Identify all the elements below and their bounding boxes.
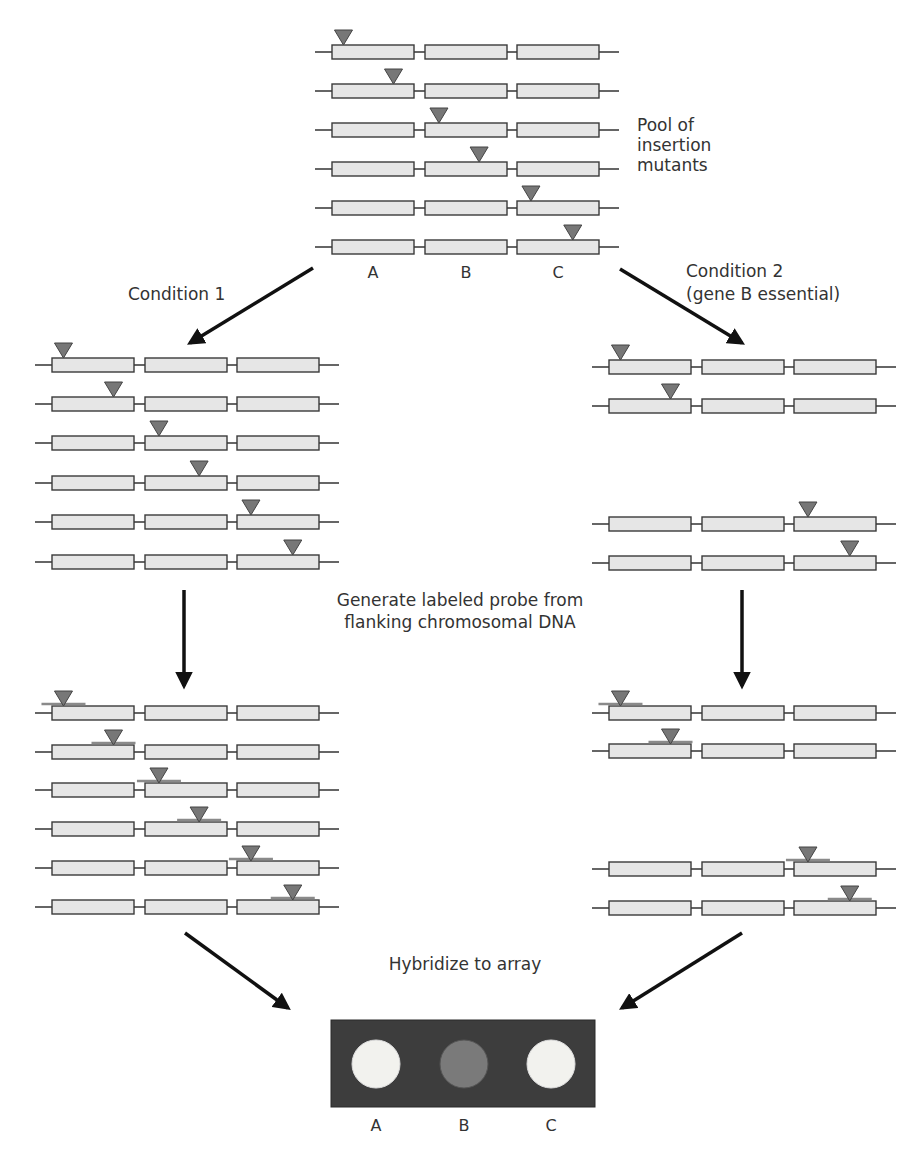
chromosome-row (35, 343, 339, 372)
gene-b-box (425, 162, 507, 176)
gene-c-box (794, 744, 876, 758)
gene-a-box (609, 360, 691, 374)
chromosome-row (35, 382, 339, 411)
probe-step-line1: Generate labeled probe from (300, 589, 620, 611)
array-label-b: B (449, 1117, 479, 1135)
chromosome-row (315, 30, 619, 59)
gene-c-box (794, 556, 876, 570)
gene-a-box (52, 515, 134, 529)
gene-c-box (517, 201, 599, 215)
gene-b-box (145, 861, 227, 875)
insertion-triangle-icon (799, 502, 817, 517)
gene-a-box (52, 900, 134, 914)
gene-c-box (237, 555, 319, 569)
gene-c-box (237, 397, 319, 411)
pool-label-line1: Pool of (637, 115, 711, 135)
gene-b-box (145, 476, 227, 490)
gene-a-box (332, 240, 414, 254)
pool-gene-label-c: C (543, 264, 573, 282)
pool-gene-label-b: B (451, 264, 481, 282)
gene-b-box (145, 397, 227, 411)
condition1-probed-group (35, 691, 339, 914)
chromosome-row (592, 847, 896, 876)
gene-b-box (145, 515, 227, 529)
chromosome-row (315, 225, 619, 254)
gene-c-box (237, 358, 319, 372)
hybridize-label: Hybridize to array (340, 954, 590, 974)
gene-b-box (145, 555, 227, 569)
arrow-condition2-array (622, 933, 742, 1008)
gene-a-box (52, 783, 134, 797)
chromosome-row (592, 886, 896, 915)
gene-a-box (52, 555, 134, 569)
condition2-label-line1: Condition 2 (686, 260, 840, 283)
gene-c-box (237, 476, 319, 490)
gene-a-box (332, 45, 414, 59)
gene-c-box (517, 240, 599, 254)
pool-label-line3: mutants (637, 155, 711, 175)
chromosome-row (592, 541, 896, 570)
gene-c-box (237, 900, 319, 914)
gene-b-box (702, 556, 784, 570)
gene-c-box (237, 515, 319, 529)
gene-c-box (794, 517, 876, 531)
gene-c-box (794, 706, 876, 720)
gene-a-box (332, 123, 414, 137)
array-spot-c (527, 1040, 575, 1088)
chromosome-row (592, 345, 896, 374)
probe-step-line2: flanking chromosomal DNA (300, 611, 620, 633)
pool-gene-label-a: A (358, 264, 388, 282)
gene-c-box (517, 84, 599, 98)
pool-label: Pool of insertion mutants (637, 115, 711, 175)
gene-b-box (425, 45, 507, 59)
chromosome-row (35, 807, 339, 836)
array-spot-b (440, 1040, 488, 1088)
condition2-probed-group (592, 691, 896, 915)
insertion-triangle-icon (150, 421, 168, 436)
insertion-triangle-icon (841, 541, 859, 556)
gene-b-box (145, 706, 227, 720)
chromosome-row (35, 421, 339, 450)
gene-b-box (425, 84, 507, 98)
gene-b-box (702, 744, 784, 758)
gene-a-box (52, 861, 134, 875)
chromosome-row (315, 147, 619, 176)
gene-c-box (517, 123, 599, 137)
array-spot-a (352, 1040, 400, 1088)
gene-a-box (52, 745, 134, 759)
gene-c-box (517, 162, 599, 176)
gene-b-box (702, 706, 784, 720)
chromosome-row (35, 768, 339, 797)
gene-a-box (332, 84, 414, 98)
chromosome-row (35, 846, 339, 875)
array-label-c: C (536, 1117, 566, 1135)
insertion-triangle-icon (470, 147, 488, 162)
gene-a-box (52, 476, 134, 490)
gene-a-box (332, 201, 414, 215)
flow-arrows (184, 268, 742, 1008)
insertion-triangle-icon (242, 500, 260, 515)
gene-a-box (609, 744, 691, 758)
gene-c-box (237, 783, 319, 797)
condition2-label-line2: (gene B essential) (686, 283, 840, 306)
chromosome-row (592, 729, 896, 758)
insertion-triangle-icon (430, 108, 448, 123)
insertion-triangle-icon (385, 69, 403, 84)
chromosome-row (35, 540, 339, 569)
gene-c-box (237, 822, 319, 836)
hybridization-array (331, 1020, 595, 1107)
gene-a-box (52, 822, 134, 836)
insertion-triangle-icon (611, 345, 629, 360)
gene-c-box (794, 360, 876, 374)
gene-b-box (145, 900, 227, 914)
gene-b-box (702, 399, 784, 413)
condition2-survivors-group (592, 345, 896, 570)
condition1-label: Condition 1 (128, 284, 225, 304)
array-label-a: A (361, 1117, 391, 1135)
probe-step-label: Generate labeled probe from flanking chr… (300, 589, 620, 633)
gene-b-box (425, 123, 507, 137)
gene-a-box (52, 706, 134, 720)
gene-a-box (609, 517, 691, 531)
gene-c-box (237, 745, 319, 759)
chromosome-row (35, 691, 339, 720)
